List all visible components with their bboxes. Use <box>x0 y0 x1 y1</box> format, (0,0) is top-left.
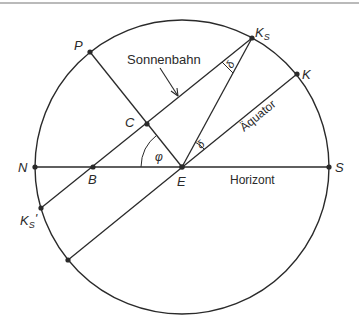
point-C <box>144 121 149 126</box>
label-phi: φ <box>155 150 163 164</box>
label-C: C <box>125 115 135 130</box>
label-K: K <box>302 67 312 82</box>
label-Ks-sub: S <box>264 32 270 42</box>
label-Ks-prime: KS' <box>20 211 38 230</box>
label-S: S <box>335 160 344 175</box>
point-K <box>294 71 299 76</box>
label-Ks: KS <box>255 25 270 42</box>
label-aequator: Äquator <box>237 97 278 134</box>
label-P: P <box>74 38 83 53</box>
sun-path-arrow <box>160 68 178 96</box>
label-horizont: Horizont <box>230 173 275 187</box>
point-Ks-prime <box>38 205 43 210</box>
point-S <box>326 164 331 169</box>
label-Ks-prime-mark: ' <box>35 211 38 226</box>
celestial-diagram: Sonnenbahn Äquator Horizont P C N B E S … <box>0 0 359 331</box>
label-N: N <box>18 160 28 175</box>
point-Ks <box>249 35 254 40</box>
label-sonnenbahn: Sonnenbahn <box>127 52 201 67</box>
polar-axis-line <box>90 52 182 167</box>
label-B: B <box>88 172 97 187</box>
arrow-head-icon <box>171 88 178 96</box>
point-N <box>32 164 37 169</box>
point-E <box>179 164 185 170</box>
label-E: E <box>177 174 186 189</box>
point-P <box>87 49 92 54</box>
point-B <box>90 164 95 169</box>
point-equator-low <box>65 257 70 262</box>
